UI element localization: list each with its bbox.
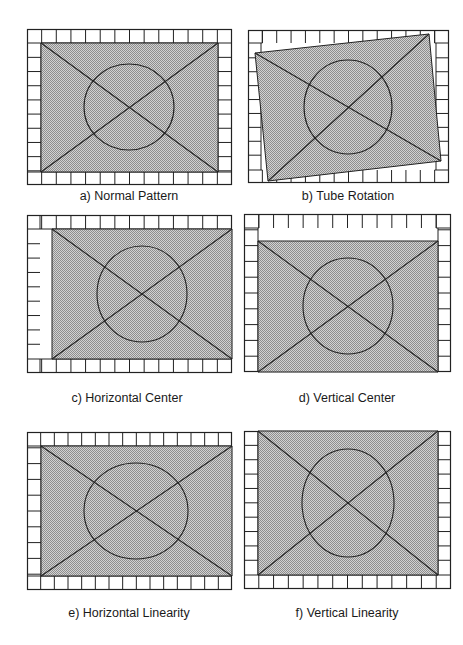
test-pattern-panel-d xyxy=(244,214,451,372)
test-pattern-panel-a xyxy=(27,29,232,185)
test-pattern-panel-f xyxy=(244,431,451,589)
panels-group xyxy=(27,29,451,590)
test-pattern-panel-e xyxy=(27,432,232,590)
test-pattern-panel-b xyxy=(248,30,449,183)
caption-vertical-linearity: f) Vertical Linearity xyxy=(296,606,399,620)
test-pattern-panel-c xyxy=(27,215,232,373)
caption-normal-pattern: a) Normal Pattern xyxy=(80,189,179,203)
caption-vertical-center: d) Vertical Center xyxy=(299,391,396,405)
caption-horizontal-center: c) Horizontal Center xyxy=(71,391,182,405)
caption-tube-rotation: b) Tube Rotation xyxy=(302,189,394,203)
caption-horizontal-linearity: e) Horizontal Linearity xyxy=(68,606,190,620)
crt-adjustment-figure xyxy=(0,0,463,645)
